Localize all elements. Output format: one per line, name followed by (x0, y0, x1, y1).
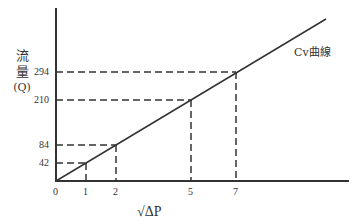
y-tick-84: 84 (39, 140, 49, 150)
y-tick-42: 42 (39, 158, 49, 168)
x-tick-1: 1 (83, 187, 88, 197)
x-tick-2: 2 (113, 187, 118, 197)
y-tick-210: 210 (34, 95, 49, 105)
x-tick-0: 0 (53, 187, 58, 197)
x-axis-label: √ΔP (137, 204, 161, 220)
curve-label: Cv曲線 (294, 43, 331, 59)
y-axis-label: 流 量 (Q) (10, 48, 34, 96)
y-tick-294: 294 (34, 67, 49, 77)
x-tick-5: 5 (188, 187, 193, 197)
y-axis-label-line-1: 流 (10, 48, 34, 64)
x-tick-7: 7 (233, 187, 238, 197)
y-axis-label-line-2: 量 (10, 64, 34, 80)
y-axis-label-line-3: (Q) (10, 80, 34, 96)
